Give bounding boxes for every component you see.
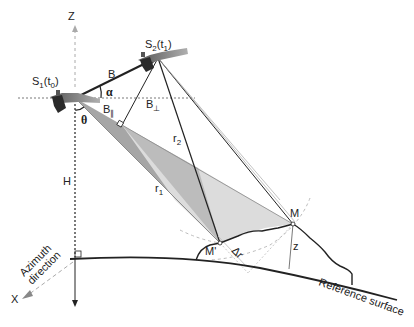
- s2-label: S2(t1): [145, 38, 172, 53]
- point-m-prime-label: M': [205, 245, 216, 257]
- alpha-arc: [100, 86, 101, 98]
- point-m-prime: [218, 241, 222, 245]
- elevation-label: z: [293, 240, 299, 252]
- theta-arc: [75, 107, 84, 110]
- x-axis-label: X: [11, 293, 19, 305]
- s1-label: S1(t0): [32, 75, 59, 90]
- right-angle-marker: [75, 251, 81, 257]
- reference-surface-label: Reference surface: [317, 276, 406, 318]
- theta-label: θ: [81, 113, 87, 127]
- z-axis-label: Z: [68, 10, 75, 22]
- insar-geometry-diagram: Z S1(t0) S2(t1) B α θ B⊥ B∥ H r1 r2 M M'…: [0, 0, 414, 327]
- point-m-label: M: [290, 207, 299, 219]
- alpha-label: α: [106, 85, 113, 99]
- r2-line: [158, 58, 220, 243]
- delta-r-label: Δr: [230, 244, 247, 261]
- baseline-label: B: [108, 68, 115, 80]
- point-m: [291, 222, 295, 226]
- z-axis: [72, 25, 81, 307]
- down-arrow-icon: [72, 300, 78, 307]
- azimuth-arrow-icon: [22, 290, 33, 299]
- height-label: H: [63, 175, 71, 187]
- slant-range-triangles: [75, 98, 293, 243]
- b-perp-label: B⊥: [146, 98, 160, 113]
- r2-label: r2: [173, 132, 182, 147]
- z-arrow-icon: [72, 25, 78, 32]
